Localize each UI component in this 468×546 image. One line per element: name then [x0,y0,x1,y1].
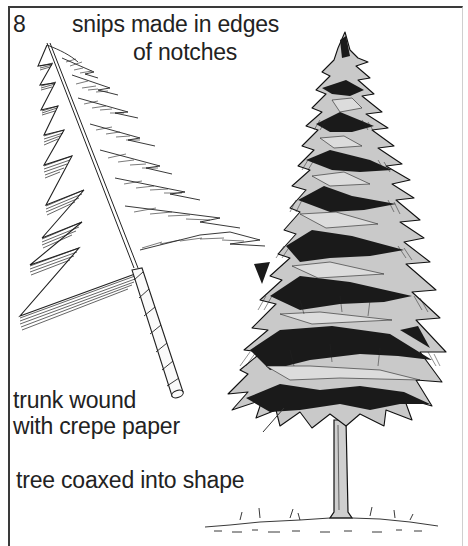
caption-tree-shape: tree coaxed into shape [16,468,244,493]
crepe-paper-wound-trunk-icon [132,268,184,399]
caption-trunk-line1: trunk wound [13,388,136,413]
caption-trunk-line2: with crepe paper [13,414,180,439]
finished-fir-tree-icon [205,32,446,532]
caption-snips-line1: snips made in edges [72,12,279,37]
step-number: 8 [13,12,26,37]
caption-snips-line2: of notches [133,40,237,65]
